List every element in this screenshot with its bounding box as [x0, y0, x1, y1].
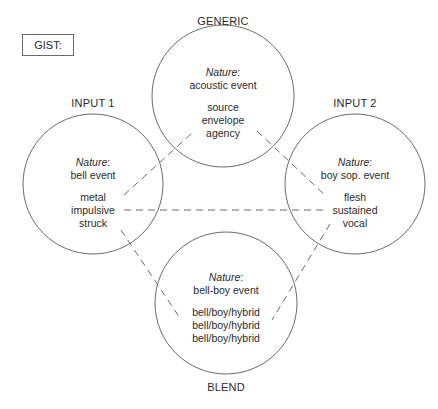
nature-value: bell event [71, 169, 116, 182]
nature-label: Nature [206, 66, 238, 78]
feature-item: source [189, 101, 256, 114]
connector-input2-blend [272, 224, 330, 320]
feature-item: metal [71, 191, 116, 204]
feature-item: envelope [189, 114, 256, 127]
generic-space-content: Nature: acoustic event source envelope a… [189, 66, 256, 140]
input2-space-title: INPUT 2 [333, 97, 376, 109]
feature-item: sustained [321, 204, 389, 217]
feature-item: agency [189, 127, 256, 140]
gist-label-box: GIST: [22, 34, 74, 56]
connector-input1-blend [121, 230, 180, 318]
generic-space-title: GENERIC [197, 15, 249, 27]
nature-label: Nature [76, 156, 108, 168]
feature-item: flesh [321, 191, 389, 204]
blend-space-title: BLEND [207, 381, 245, 393]
input1-space-content: Nature: bell event metal impulsive struc… [71, 156, 116, 230]
blend-space-content: Nature: bell-boy event bell/boy/hybrid b… [192, 271, 260, 345]
input2-space-content: Nature: boy sop. event flesh sustained v… [321, 156, 389, 230]
input1-space-title: INPUT 1 [71, 97, 114, 109]
nature-value: bell-boy event [192, 284, 260, 297]
nature-value: acoustic event [189, 79, 256, 92]
feature-item: impulsive [71, 204, 116, 217]
feature-item: bell/boy/hybrid [192, 332, 260, 345]
feature-item: bell/boy/hybrid [192, 306, 260, 319]
feature-item: struck [71, 217, 116, 230]
nature-label: Nature [209, 271, 241, 283]
connector-input1-generic [124, 133, 192, 195]
nature-label: Nature [338, 156, 370, 168]
connector-input2-generic [257, 131, 327, 197]
feature-item: vocal [321, 217, 389, 230]
nature-value: boy sop. event [321, 169, 389, 182]
feature-item: bell/boy/hybrid [192, 319, 260, 332]
